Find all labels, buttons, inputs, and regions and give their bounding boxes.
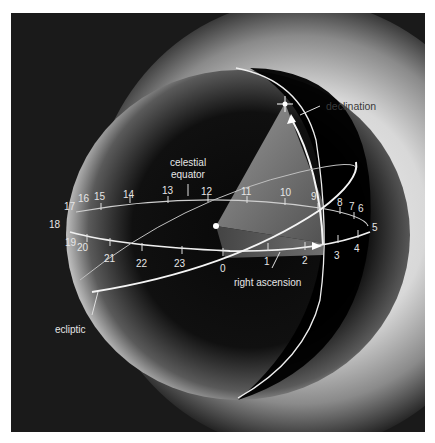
hour-20: 20	[77, 242, 89, 253]
hour-9: 9	[311, 191, 317, 202]
hour-1: 1	[264, 256, 270, 267]
celestial-sphere-diagram: declination celestial equator right asce…	[11, 13, 425, 432]
hour-19: 19	[65, 237, 77, 248]
hour-0: 0	[220, 263, 226, 274]
hour-18: 18	[49, 219, 61, 230]
hour-15: 15	[94, 191, 106, 202]
hour-14: 14	[123, 189, 135, 200]
hour-17: 17	[64, 201, 76, 212]
hour-3: 3	[334, 250, 340, 261]
right-ascension-label: right ascension	[234, 277, 301, 288]
observer-center-dot	[213, 223, 219, 229]
hour-22: 22	[136, 258, 148, 269]
hour-5: 5	[372, 222, 378, 233]
hour-8: 8	[337, 197, 343, 208]
hour-2: 2	[302, 255, 308, 266]
hour-4: 4	[354, 243, 360, 254]
hour-7: 7	[349, 201, 355, 212]
declination-label: declination	[326, 100, 376, 112]
hour-12: 12	[201, 186, 213, 197]
hour-13: 13	[162, 185, 174, 196]
hour-23: 23	[174, 258, 186, 269]
hour-21: 21	[104, 253, 116, 264]
celestial-equator-label-2: equator	[171, 169, 206, 180]
ecliptic-label: ecliptic	[55, 324, 86, 335]
hour-11: 11	[241, 186, 252, 197]
hour-6: 6	[358, 203, 364, 214]
hour-16: 16	[78, 193, 90, 204]
hour-10: 10	[280, 187, 292, 198]
celestial-equator-label-1: celestial	[170, 157, 206, 168]
